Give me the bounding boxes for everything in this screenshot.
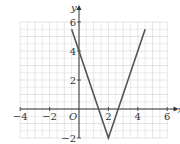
y-tick-label: 4 bbox=[70, 46, 76, 57]
y-axis-arrow-icon bbox=[77, 5, 82, 10]
x-tick-label: −2 bbox=[42, 111, 57, 122]
x-axis-label: x bbox=[178, 104, 180, 115]
x-tick-label: 6 bbox=[164, 111, 170, 122]
graph: −4−2246642−2 x y O bbox=[0, 0, 180, 144]
origin-label: O bbox=[69, 111, 77, 122]
x-tick-label: −4 bbox=[13, 111, 28, 122]
y-tick-label: −2 bbox=[61, 133, 76, 144]
x-tick-label: 2 bbox=[105, 111, 111, 122]
tick-labels: −4−2246642−2 bbox=[13, 17, 171, 144]
y-tick-label: 2 bbox=[70, 75, 76, 86]
y-axis-label: y bbox=[70, 2, 77, 13]
x-tick-label: 4 bbox=[135, 111, 141, 122]
y-tick-label: 6 bbox=[70, 17, 76, 28]
